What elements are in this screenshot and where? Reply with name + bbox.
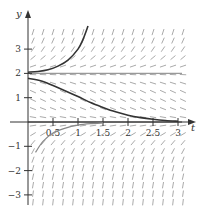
slope-mark (83, 199, 84, 205)
slope-mark (182, 174, 183, 180)
slope-mark (182, 182, 183, 188)
slope-mark (103, 199, 104, 205)
slope-mark (172, 29, 174, 35)
slope-mark (50, 107, 56, 109)
slope-mark (42, 182, 43, 188)
slope-mark (71, 148, 74, 154)
slope-mark (70, 65, 76, 67)
slope-mark (50, 90, 56, 93)
slope-mark (80, 82, 86, 84)
slope-mark (70, 82, 76, 84)
slope-mark (132, 174, 133, 180)
y-tick-label: 2 (15, 68, 21, 78)
slope-mark (131, 46, 135, 51)
slope-mark (130, 107, 136, 109)
slope-mark (92, 157, 94, 163)
slope-mark (62, 165, 64, 171)
y-axis-label: y (15, 8, 22, 19)
x-tick-label: 2 (125, 128, 131, 138)
slope-mark (172, 174, 173, 180)
slope-mark (32, 174, 33, 180)
slope-mark (141, 46, 145, 51)
x-tick-label: 1.5 (96, 128, 111, 138)
slope-mark (71, 140, 75, 145)
slope-mark (80, 90, 86, 93)
slope-mark (140, 125, 146, 126)
slope-mark (91, 148, 94, 154)
slope-mark (90, 82, 96, 84)
slope-mark (112, 165, 114, 171)
slope-mark (132, 38, 135, 44)
slope-mark (30, 65, 36, 67)
y-axis-arrow-icon (25, 10, 31, 18)
slope-mark (70, 117, 76, 118)
slope-mark (182, 165, 184, 171)
slope-mark (180, 117, 186, 118)
y-tick-label: 3 (15, 44, 21, 54)
slope-mark (130, 99, 136, 102)
slope-mark (92, 38, 95, 44)
slope-mark (130, 132, 135, 135)
slope-mark (40, 65, 46, 67)
slope-mark (90, 99, 96, 102)
slope-mark (62, 157, 64, 163)
slope-mark (101, 148, 104, 154)
slope-mark (140, 90, 146, 93)
slope-mark (42, 38, 45, 44)
slope-mark (122, 182, 123, 188)
slope-mark (111, 46, 115, 51)
slope-mark (42, 165, 44, 171)
slope-mark (31, 148, 34, 154)
slope-mark (111, 148, 114, 154)
slope-mark (90, 107, 96, 109)
slope-mark (32, 182, 33, 188)
slope-mark (113, 191, 114, 197)
slope-mark (130, 125, 136, 126)
x-tick-label: 2.5 (146, 128, 161, 138)
slope-mark (160, 90, 166, 93)
slope-mark (143, 199, 144, 205)
slope-mark (91, 56, 96, 60)
slope-mark (150, 65, 156, 67)
slope-mark (121, 140, 125, 145)
slope-mark (162, 174, 163, 180)
slope-mark (92, 29, 94, 35)
slope-mark (172, 157, 174, 163)
slope-mark (122, 157, 124, 163)
slope-mark (141, 148, 144, 154)
slope-mark (172, 38, 175, 44)
slope-mark (33, 191, 34, 197)
slope-mark (140, 99, 146, 102)
slope-mark (80, 132, 85, 135)
slope-mark (30, 132, 35, 135)
slope-mark (143, 191, 144, 197)
slope-mark (62, 182, 63, 188)
slope-mark (70, 107, 76, 109)
slope-mark (83, 191, 84, 197)
slope-mark (131, 140, 135, 145)
slope-mark (72, 157, 74, 163)
slope-mark (31, 56, 36, 60)
slope-mark (101, 56, 106, 60)
slope-mark (151, 140, 155, 145)
slope-mark (52, 38, 55, 44)
slope-mark (142, 165, 144, 171)
y-tick-label: −2 (8, 166, 21, 176)
slope-mark (141, 56, 146, 60)
slope-mark (40, 107, 46, 109)
slope-mark (101, 46, 105, 51)
slope-mark (150, 107, 156, 109)
slope-mark (92, 182, 93, 188)
slope-mark (140, 65, 146, 67)
slope-mark (81, 148, 84, 154)
slope-mark (150, 82, 156, 84)
slope-mark (131, 56, 136, 60)
slope-mark (102, 165, 104, 171)
slope-mark (50, 82, 56, 84)
slope-mark (61, 56, 66, 60)
slope-mark (112, 38, 115, 44)
equilibrium-lines (28, 73, 182, 122)
slope-mark (142, 38, 145, 44)
slope-mark (111, 140, 115, 145)
slope-mark (92, 174, 93, 180)
